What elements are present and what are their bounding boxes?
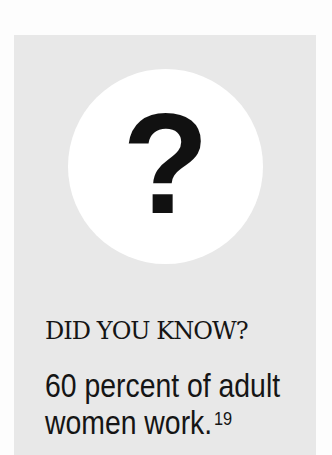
question-mark-icon: ? (122, 93, 209, 235)
callout-body: 60 percent of adult women work.19 (45, 367, 280, 441)
body-line-2: women work.19 (45, 404, 280, 441)
icon-circle: ? (68, 69, 263, 264)
body-line-2-text: women work. (45, 404, 212, 441)
body-line-1: 60 percent of adult (45, 367, 280, 404)
did-you-know-callout: ? DID YOU KNOW? 60 percent of adult wome… (14, 35, 316, 455)
footnote-reference: 19 (214, 408, 232, 429)
callout-heading: DID YOU KNOW? (45, 316, 248, 345)
